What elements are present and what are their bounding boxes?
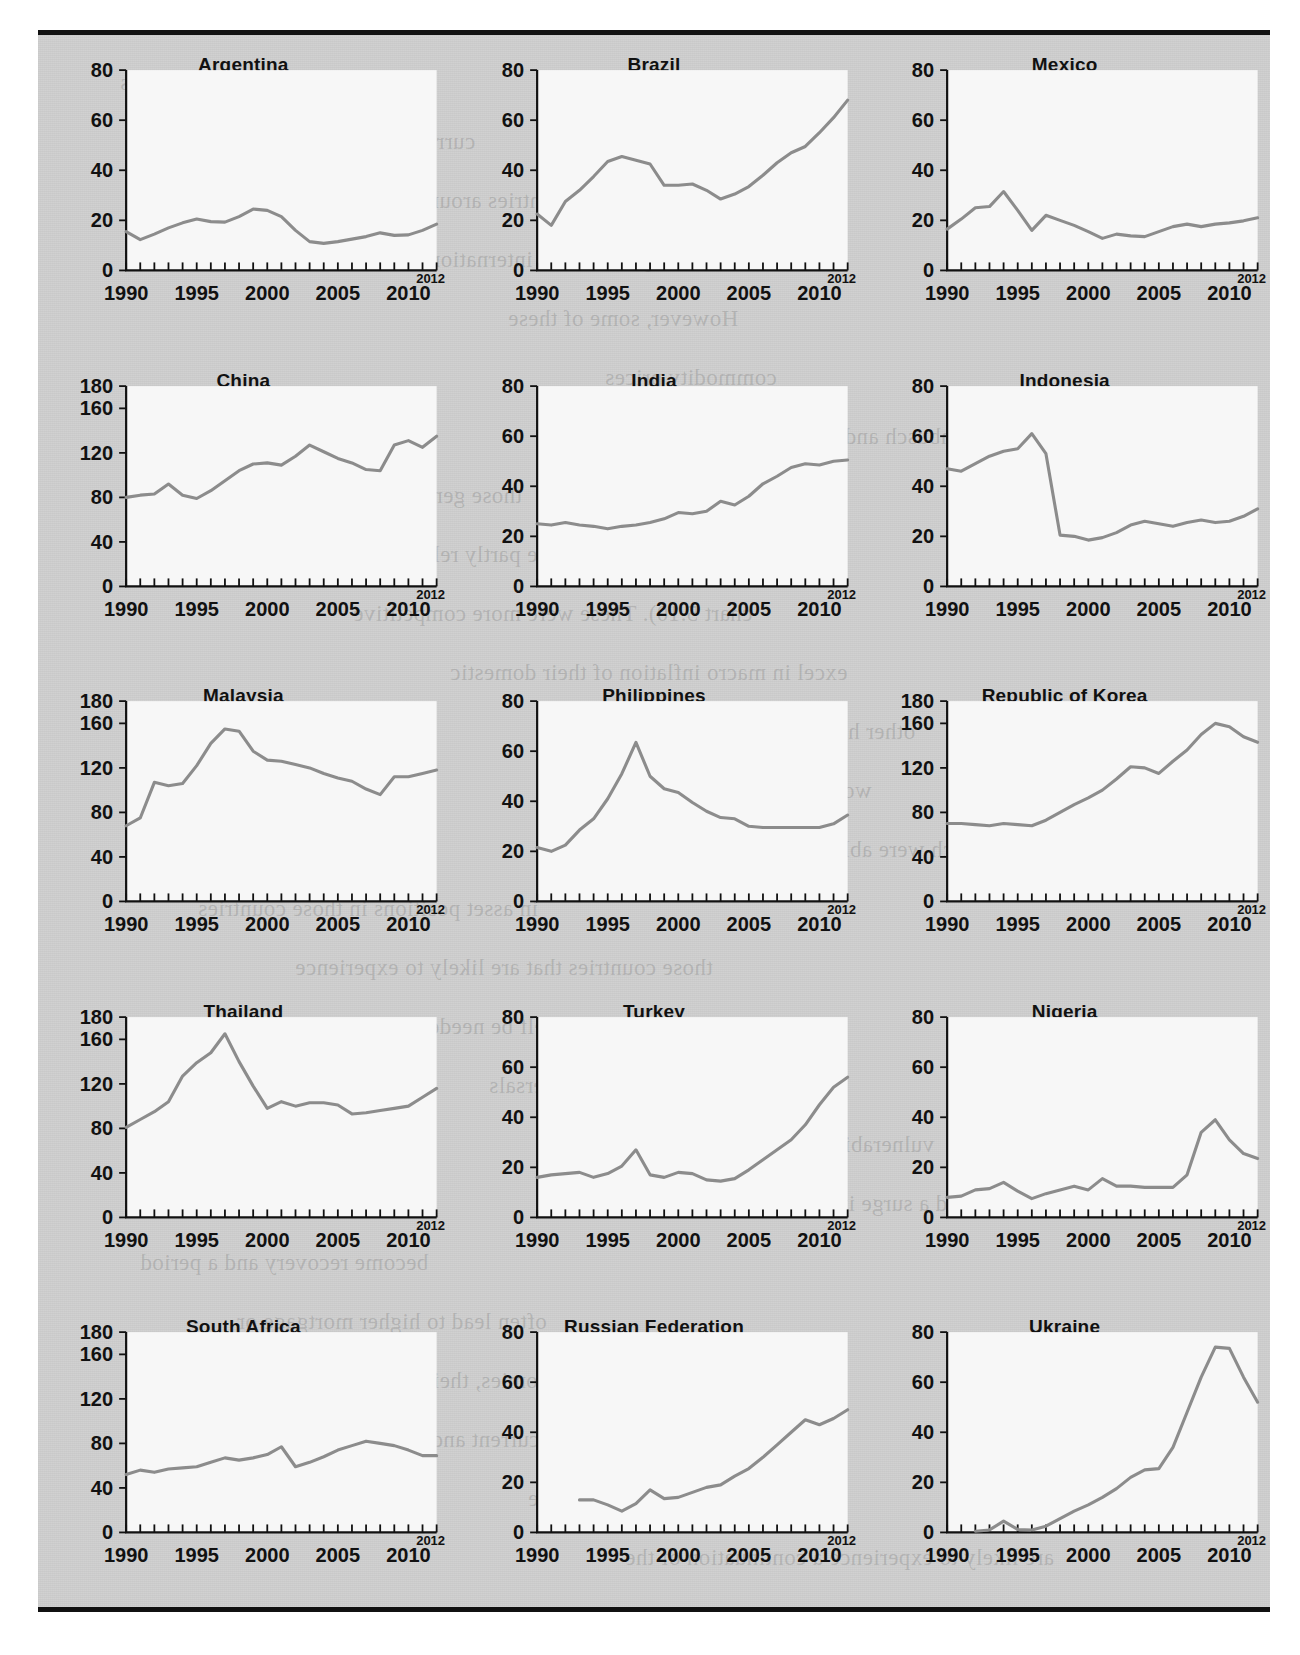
y-tick-label: 40 xyxy=(502,159,524,181)
x-tick-label: 1990 xyxy=(515,1545,560,1567)
plot-area: 04080120160180199019952000200520102012 xyxy=(859,663,1270,979)
x-tick-label: 2000 xyxy=(1066,282,1111,304)
y-tick-label: 180 xyxy=(80,690,113,712)
y-tick-label: 80 xyxy=(502,1006,524,1028)
plot-area: 020406080199019952000200520102012 xyxy=(859,979,1270,1295)
x-end-label: 2012 xyxy=(827,1534,856,1549)
y-tick-label: 40 xyxy=(502,1422,524,1444)
y-tick-label: 60 xyxy=(912,425,934,447)
x-tick-label: 1995 xyxy=(585,914,630,936)
y-tick-label: 80 xyxy=(912,1322,934,1344)
plot-background xyxy=(537,386,848,586)
chart-panel-china: China04080120160180199019952000200520102… xyxy=(38,348,449,664)
plot-background xyxy=(947,1333,1257,1533)
plot-background xyxy=(537,1332,848,1532)
y-tick-label: 40 xyxy=(502,1106,524,1128)
x-tick-label: 2005 xyxy=(1137,598,1182,620)
chart-panel-brazil: Brazil020406080199019952000200520102012 xyxy=(449,32,860,348)
x-tick-label: 2000 xyxy=(245,1545,290,1567)
x-tick-label: 1990 xyxy=(515,282,560,304)
y-tick-label: 40 xyxy=(502,475,524,497)
y-tick-label: 120 xyxy=(80,1388,113,1410)
x-tick-label: 2000 xyxy=(656,1229,701,1251)
y-tick-label: 20 xyxy=(502,209,524,231)
plot-area: 020406080199019952000200520102012 xyxy=(859,32,1270,348)
x-end-label: 2012 xyxy=(1237,587,1266,602)
x-tick-label: 2005 xyxy=(1137,1229,1182,1251)
y-tick-label: 60 xyxy=(912,1056,934,1078)
y-tick-label: 80 xyxy=(91,59,113,81)
y-tick-label: 40 xyxy=(912,475,934,497)
y-tick-label: 80 xyxy=(912,1006,934,1028)
x-tick-label: 1995 xyxy=(174,598,219,620)
y-tick-label: 0 xyxy=(923,891,934,913)
y-tick-label: 80 xyxy=(91,1117,113,1139)
y-tick-label: 0 xyxy=(102,259,113,281)
x-tick-label: 1990 xyxy=(925,1229,970,1251)
y-tick-label: 160 xyxy=(80,1028,113,1050)
chart-panel-malaysia: Malaysia04080120160180199019952000200520… xyxy=(38,663,449,979)
x-tick-label: 2005 xyxy=(726,1229,771,1251)
y-tick-label: 120 xyxy=(80,1073,113,1095)
x-tick-label: 1990 xyxy=(925,1545,970,1567)
plot-area: 020406080199019952000200520102012 xyxy=(859,348,1270,664)
x-tick-label: 1990 xyxy=(104,282,149,304)
y-tick-label: 80 xyxy=(912,802,934,824)
x-end-label: 2012 xyxy=(1237,271,1266,286)
plot-background xyxy=(126,70,436,270)
small-multiples-grid: Argentina0204060801990199520002005201020… xyxy=(38,32,1270,1610)
y-tick-label: 80 xyxy=(502,375,524,397)
x-tick-label: 2000 xyxy=(1066,914,1111,936)
x-tick-label: 1990 xyxy=(104,1545,149,1567)
y-tick-label: 80 xyxy=(502,59,524,81)
plot-area: 04080120160180199019952000200520102012 xyxy=(38,348,449,664)
x-end-label: 2012 xyxy=(416,1218,445,1233)
y-tick-label: 0 xyxy=(102,1206,113,1228)
x-tick-label: 1995 xyxy=(996,282,1041,304)
x-tick-label: 1990 xyxy=(104,598,149,620)
chart-panel-thailand: Thailand04080120160180199019952000200520… xyxy=(38,979,449,1295)
plot-area: 04080120160180199019952000200520102012 xyxy=(38,1294,449,1610)
x-end-label: 2012 xyxy=(416,903,445,918)
x-tick-label: 1995 xyxy=(996,914,1041,936)
x-end-label: 2012 xyxy=(1237,1534,1266,1549)
x-end-label: 2012 xyxy=(1237,903,1266,918)
y-tick-label: 40 xyxy=(91,531,113,553)
x-tick-label: 2005 xyxy=(316,282,361,304)
x-tick-label: 1995 xyxy=(174,914,219,936)
y-tick-label: 180 xyxy=(80,1322,113,1344)
y-tick-label: 60 xyxy=(502,1372,524,1394)
x-end-label: 2012 xyxy=(416,271,445,286)
y-tick-label: 120 xyxy=(80,757,113,779)
y-tick-label: 60 xyxy=(502,109,524,131)
x-tick-label: 2005 xyxy=(726,598,771,620)
x-tick-label: 2005 xyxy=(726,282,771,304)
y-tick-label: 0 xyxy=(102,891,113,913)
y-tick-label: 20 xyxy=(912,209,934,231)
y-tick-label: 0 xyxy=(923,1206,934,1228)
x-tick-label: 1995 xyxy=(174,1545,219,1567)
y-tick-label: 60 xyxy=(502,740,524,762)
chart-panel-russian-federation: Russian Federation0204060801990199520002… xyxy=(449,1294,860,1610)
plot-background xyxy=(126,701,436,901)
x-tick-label: 1995 xyxy=(585,598,630,620)
y-tick-label: 0 xyxy=(513,1206,524,1228)
x-end-label: 2012 xyxy=(1237,1218,1266,1233)
x-tick-label: 2005 xyxy=(316,1545,361,1567)
y-tick-label: 0 xyxy=(102,1522,113,1544)
y-tick-label: 40 xyxy=(912,1422,934,1444)
x-tick-label: 2005 xyxy=(316,598,361,620)
plot-area: 020406080199019952000200520102012 xyxy=(38,32,449,348)
chart-panel-ukraine: Ukraine020406080199019952000200520102012 xyxy=(859,1294,1270,1610)
y-tick-label: 20 xyxy=(912,1156,934,1178)
y-tick-label: 80 xyxy=(502,690,524,712)
y-tick-label: 180 xyxy=(80,375,113,397)
x-tick-label: 1990 xyxy=(925,282,970,304)
y-tick-label: 60 xyxy=(912,1372,934,1394)
y-tick-label: 40 xyxy=(912,159,934,181)
x-end-label: 2012 xyxy=(416,587,445,602)
x-end-label: 2012 xyxy=(827,903,856,918)
y-tick-label: 180 xyxy=(901,690,934,712)
x-tick-label: 2000 xyxy=(1066,598,1111,620)
y-tick-label: 40 xyxy=(91,846,113,868)
